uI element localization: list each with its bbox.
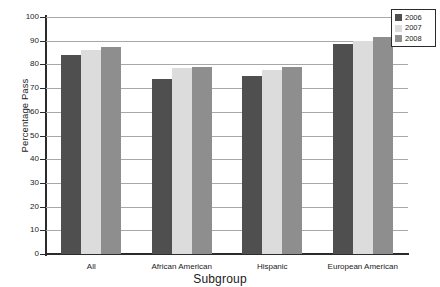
y-axis-tick-mark (40, 112, 45, 113)
y-axis-tick-mark (40, 207, 45, 208)
x-axis-category-label: European American (318, 262, 409, 271)
plot-area (46, 17, 408, 254)
legend-item-2008: 2008 (395, 34, 433, 44)
bar-2007-hispanic (262, 70, 282, 254)
y-axis-tick-mark (40, 88, 45, 89)
legend-swatch-icon (395, 25, 402, 32)
legend-label: 2007 (405, 24, 422, 32)
bar-2006-african-american (152, 79, 172, 254)
legend-item-2006: 2006 (395, 13, 433, 23)
legend: 200620072008 (391, 9, 436, 47)
legend-item-2007: 2007 (395, 23, 433, 33)
bar-2007-all (81, 50, 101, 254)
x-axis-category-label: All (46, 262, 137, 271)
y-axis-tick-mark (40, 254, 45, 255)
y-axis-tick-label: 90 (13, 37, 39, 45)
y-axis-tick-mark (40, 230, 45, 231)
bar-2006-european-american (333, 44, 353, 254)
legend-label: 2006 (405, 14, 422, 22)
legend-swatch-icon (395, 14, 402, 21)
y-axis-tick-label: 20 (13, 203, 39, 211)
y-axis-tick-mark (40, 41, 45, 42)
bar-2008-european-american (373, 37, 393, 254)
gridline (46, 17, 408, 18)
y-axis-tick-mark (40, 159, 45, 160)
x-axis-category-label: Hispanic (227, 262, 318, 271)
y-axis-tick-label: 70 (13, 84, 39, 92)
x-axis-category-label: African American (137, 262, 228, 271)
legend-label: 2008 (405, 35, 422, 43)
bar-2008-african-american (192, 67, 212, 254)
y-axis-tick-label: 30 (13, 179, 39, 187)
y-axis-tick-label: 0 (13, 250, 39, 258)
y-axis-tick-label: 100 (13, 13, 39, 21)
bar-2007-european-american (353, 41, 373, 254)
y-axis-tick-label: 60 (13, 108, 39, 116)
y-axis-tick-mark (40, 64, 45, 65)
y-axis-tick-label: 50 (13, 132, 39, 140)
y-axis-tick-mark (40, 136, 45, 137)
bar-2007-african-american (172, 68, 192, 254)
legend-swatch-icon (395, 35, 402, 42)
bar-2008-hispanic (282, 67, 302, 254)
bar-chart: Percentage Pass 0102030405060708090100 A… (0, 0, 440, 287)
y-axis-tick-mark (40, 17, 45, 18)
y-axis-tick-label: 10 (13, 226, 39, 234)
y-axis-tick-label: 40 (13, 155, 39, 163)
y-axis-tick-mark (40, 183, 45, 184)
y-axis-tick-label: 80 (13, 60, 39, 68)
bar-2006-all (61, 55, 81, 254)
x-axis-title: Subgroup (0, 272, 440, 286)
bar-2006-hispanic (242, 76, 262, 254)
bar-2008-all (101, 47, 121, 254)
